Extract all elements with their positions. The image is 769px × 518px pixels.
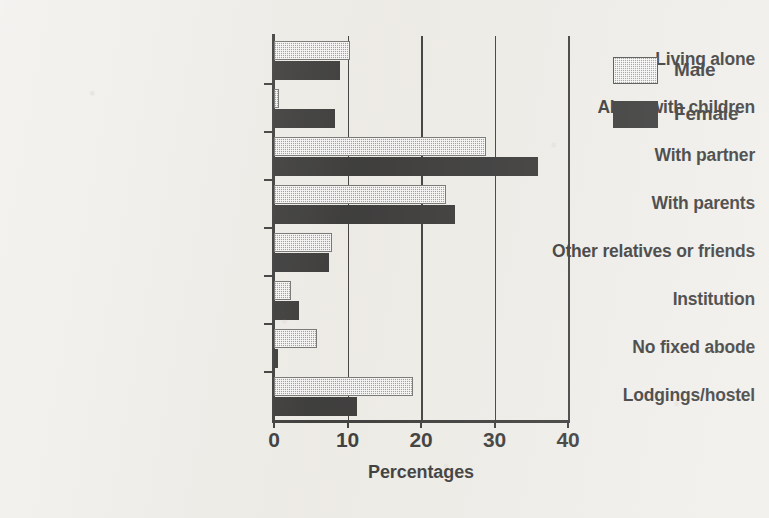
bar-female-5 bbox=[274, 301, 299, 320]
x-tick-label-0: 0 bbox=[268, 428, 279, 452]
gridline-10 bbox=[348, 36, 350, 420]
y-tick-1 bbox=[264, 83, 273, 85]
male-swatch-icon bbox=[613, 57, 658, 84]
bar-female-7 bbox=[274, 397, 357, 416]
y-tick-4 bbox=[264, 227, 273, 229]
female-swatch-icon bbox=[613, 101, 658, 128]
bar-male-0 bbox=[274, 41, 350, 60]
y-axis-label-6: No fixed abode bbox=[501, 337, 769, 358]
x-tick-mark-10 bbox=[347, 420, 349, 428]
legend: Male Female bbox=[613, 48, 763, 136]
y-tick-6 bbox=[264, 323, 273, 325]
gridline-20 bbox=[421, 36, 423, 420]
y-axis-label-4: Other relatives or friends bbox=[501, 241, 769, 262]
y-tick-2 bbox=[264, 131, 273, 133]
y-axis-label-5: Institution bbox=[501, 289, 769, 310]
x-axis-title: Percentages bbox=[274, 462, 568, 483]
bar-male-1 bbox=[274, 89, 279, 108]
bar-female-4 bbox=[274, 253, 329, 272]
legend-label-female: Female bbox=[674, 103, 738, 125]
x-tick-label-40: 40 bbox=[557, 428, 580, 452]
bar-female-0 bbox=[274, 61, 340, 80]
x-tick-mark-30 bbox=[494, 420, 496, 428]
bar-male-3 bbox=[274, 185, 446, 204]
plot-area bbox=[274, 36, 568, 420]
x-tick-label-10: 10 bbox=[336, 428, 359, 452]
y-tick-3 bbox=[264, 179, 273, 181]
legend-item-male: Male bbox=[613, 48, 763, 92]
x-tick-mark-0 bbox=[273, 420, 275, 428]
bar-female-3 bbox=[274, 205, 455, 224]
bar-male-7 bbox=[274, 377, 413, 396]
bar-female-2 bbox=[274, 157, 538, 176]
y-axis-label-2: With partner bbox=[501, 145, 769, 166]
x-tick-label-20: 20 bbox=[410, 428, 433, 452]
gridline-30 bbox=[495, 36, 497, 420]
y-tick-7 bbox=[264, 371, 273, 373]
x-tick-mark-40 bbox=[567, 420, 569, 428]
x-tick-label-30: 30 bbox=[483, 428, 506, 452]
bar-chart: 010203040 Living aloneAlone with childre… bbox=[0, 0, 769, 518]
bar-male-5 bbox=[274, 281, 291, 300]
gridline-40 bbox=[568, 36, 570, 420]
y-tick-5 bbox=[264, 275, 273, 277]
legend-item-female: Female bbox=[613, 92, 763, 136]
bar-female-6 bbox=[274, 349, 278, 368]
bar-male-4 bbox=[274, 233, 332, 252]
y-axis-label-7: Lodgings/hostel bbox=[501, 385, 769, 406]
y-axis-label-3: With parents bbox=[501, 193, 769, 214]
bar-male-2 bbox=[274, 137, 486, 156]
legend-label-male: Male bbox=[674, 59, 715, 81]
bar-female-1 bbox=[274, 109, 335, 128]
bar-male-6 bbox=[274, 329, 317, 348]
x-tick-mark-20 bbox=[420, 420, 422, 428]
